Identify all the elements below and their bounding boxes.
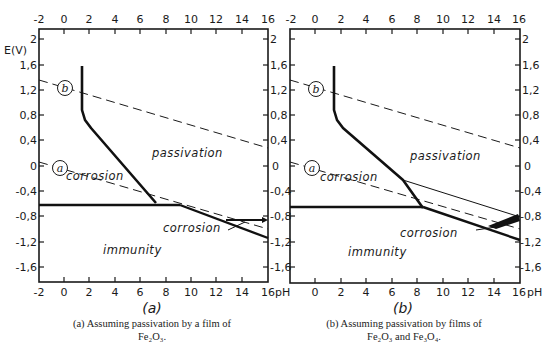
panel-b-corrosion-acid-label: corrosion	[320, 170, 378, 184]
svg-text:4: 4	[363, 13, 370, 26]
svg-text:10: 10	[184, 13, 198, 26]
svg-text:-1,2: -1,2	[520, 236, 541, 249]
svg-text:-0,4: -0,4	[270, 185, 291, 198]
svg-text:-2: -2	[286, 13, 297, 26]
svg-text:0: 0	[61, 13, 68, 26]
svg-text:-0,8: -0,8	[270, 210, 291, 223]
svg-text:b: b	[312, 83, 319, 96]
svg-text:12: 12	[461, 13, 475, 26]
svg-text:2: 2	[30, 33, 37, 46]
svg-text:-0,4: -0,4	[520, 185, 541, 198]
panel-b: -2 0 2 4 6 8 10 12 14 16 0 2 4 6 8 10 12…	[286, 13, 543, 316]
svg-text:0,4: 0,4	[20, 134, 38, 147]
svg-text:-1,6: -1,6	[16, 261, 37, 274]
svg-text:14: 14	[487, 13, 501, 26]
svg-text:4: 4	[112, 13, 119, 26]
svg-text:6: 6	[137, 286, 144, 299]
panel-b-fe3o4-fe2o3-boundary	[403, 180, 520, 217]
svg-text:4: 4	[363, 286, 370, 299]
svg-text:8: 8	[414, 286, 421, 299]
svg-text:14: 14	[235, 13, 249, 26]
svg-text:6: 6	[389, 13, 396, 26]
panel-a-corrosion-alk-label: corrosion	[163, 221, 221, 235]
svg-text:14: 14	[235, 286, 249, 299]
panel-a-caption-line2: Fe₂O₃.	[40, 330, 264, 343]
panel-b-letter: (b)	[393, 300, 413, 316]
panel-a-passivation-label: passivation	[151, 146, 223, 160]
panel-b-corrosion-alk-label: corrosion	[400, 226, 458, 240]
svg-text:8: 8	[414, 13, 421, 26]
y-axis-label: E(V)	[4, 44, 27, 57]
svg-text:1,2: 1,2	[522, 84, 540, 97]
svg-text:0,8: 0,8	[522, 109, 540, 122]
svg-text:a: a	[57, 162, 64, 175]
panel-a-bottom-x-labels: -2 0 2 4 6 8 10 12 14 16	[34, 286, 275, 299]
svg-text:b: b	[61, 82, 68, 95]
svg-text:0,4: 0,4	[522, 134, 540, 147]
svg-text:2: 2	[338, 13, 345, 26]
svg-text:1,6: 1,6	[20, 59, 38, 72]
svg-text:0: 0	[312, 286, 319, 299]
svg-text:-0,8: -0,8	[520, 210, 541, 223]
svg-text:10: 10	[184, 286, 198, 299]
svg-text:a: a	[309, 162, 316, 175]
pourbaix-diagrams: -2 0 2 4 6 8 10 12 14 16 -2 0 2 4 6 8 10…	[0, 0, 549, 349]
panel-b-caption: (b) Assuming passivation by films of Fe₂…	[288, 317, 520, 343]
svg-text:-1,6: -1,6	[270, 261, 291, 274]
svg-text:16: 16	[261, 286, 275, 299]
panel-b-top-x-labels: -2 0 2 4 6 8 10 12 14 16	[286, 13, 526, 26]
svg-text:1,2: 1,2	[20, 84, 38, 97]
svg-text:1,2: 1,2	[270, 84, 288, 97]
svg-text:-2: -2	[34, 286, 45, 299]
panel-b-line-b-marker: b	[309, 82, 324, 97]
panel-b-line-a-marker: a	[305, 161, 320, 176]
svg-text:2: 2	[522, 33, 529, 46]
svg-text:1,6: 1,6	[522, 59, 540, 72]
svg-text:-2: -2	[34, 13, 45, 26]
svg-text:0,8: 0,8	[270, 109, 288, 122]
svg-text:0,8: 0,8	[20, 109, 38, 122]
panel-b-fe2-fe2o3-boundary	[334, 66, 423, 208]
panel-b-passivation-label: passivation	[409, 149, 481, 163]
svg-text:16: 16	[512, 13, 526, 26]
panel-b-right-y-labels: 2 1,6 1,2 0,8 0,4 0 -0,4 -0,8 -1,2 -1,6	[520, 33, 541, 274]
panel-b-immunity-label: immunity	[348, 245, 407, 259]
svg-text:8: 8	[163, 13, 170, 26]
panel-b-caption-line2: Fe₂O₃ and Fe₃O₄.	[288, 330, 520, 343]
svg-text:12: 12	[209, 13, 223, 26]
svg-text:0: 0	[524, 160, 531, 173]
panel-a-caption: (a) Assuming passivation by a film of Fe…	[40, 317, 264, 343]
svg-text:0: 0	[30, 160, 37, 173]
panel-b-caption-line1: (b) Assuming passivation by films of	[288, 317, 520, 330]
svg-text:2: 2	[86, 286, 93, 299]
svg-text:0,4: 0,4	[270, 134, 288, 147]
svg-text:12: 12	[209, 286, 223, 299]
panel-a-ph-unit: pH	[275, 286, 290, 299]
svg-text:1,6: 1,6	[270, 59, 288, 72]
svg-text:0: 0	[272, 160, 279, 173]
panel-a-caption-line1: (a) Assuming passivation by a film of	[40, 317, 264, 330]
svg-text:10: 10	[436, 286, 450, 299]
panel-a-top-x-labels: -2 0 2 4 6 8 10 12 14 16	[34, 13, 275, 26]
panel-b-ph-unit: pH	[527, 286, 542, 299]
svg-text:0: 0	[61, 286, 68, 299]
panel-a-left-y-labels: 2 1,6 1,2 0,8 0,4 0 -0,4 -0,8 -1,2 -1,6	[16, 33, 37, 274]
svg-text:-1,6: -1,6	[520, 261, 541, 274]
svg-text:6: 6	[389, 286, 396, 299]
svg-text:-0,4: -0,4	[16, 185, 37, 198]
svg-text:16: 16	[512, 286, 526, 299]
svg-text:4: 4	[112, 286, 119, 299]
svg-text:2: 2	[270, 33, 277, 46]
panel-a-letter: (a)	[142, 300, 162, 316]
panel-a-hfeo2-marker	[262, 217, 268, 223]
panel-a-line-b	[39, 80, 268, 148]
svg-text:10: 10	[436, 13, 450, 26]
svg-text:-1,2: -1,2	[16, 236, 37, 249]
panel-a-corrosion-acid-label: corrosion	[66, 169, 124, 183]
svg-text:2: 2	[338, 286, 345, 299]
panel-b-line-b	[290, 80, 520, 148]
svg-text:0: 0	[312, 13, 319, 26]
svg-text:2: 2	[86, 13, 93, 26]
panel-a-right-y-labels: 2 1,6 1,2 0,8 0,4 0 -0,4 -0,8 -1,2 -1,6	[270, 33, 291, 274]
panel-b-bottom-x-labels: 0 2 4 6 8 10 12 14 16	[312, 286, 527, 299]
